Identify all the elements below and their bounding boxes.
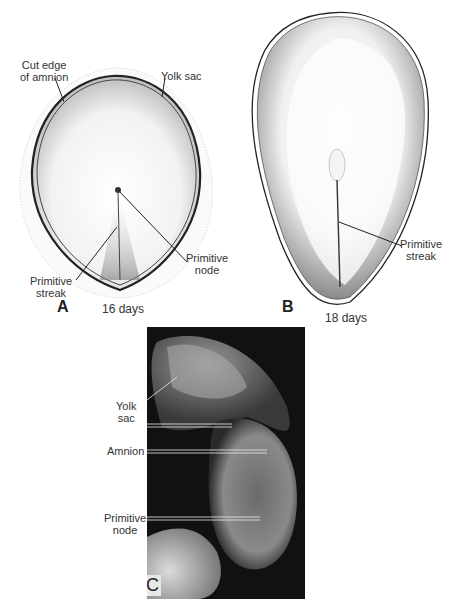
label-line: of amnion (20, 71, 68, 83)
panel-letter-c: C (147, 575, 161, 596)
label-primitive-node-a: Primitive node (186, 252, 228, 276)
label-primitive-streak-a: Primitive streak (30, 275, 72, 299)
label-line: Primitive (400, 238, 442, 250)
label-line: node (186, 264, 228, 276)
label-line: Primitive (30, 275, 72, 287)
photo-content (147, 327, 305, 599)
label-primitive-streak-b: Primitive streak (400, 238, 442, 262)
label-yolk-sac-a: Yolk sac (161, 70, 202, 82)
panel-letter-b: B (282, 298, 294, 316)
label-cut-edge-of-amnion: Cut edge of amnion (20, 59, 68, 83)
label-line: Primitive (186, 252, 228, 264)
panel-a-embryo (20, 68, 213, 298)
caption-b: 18 days (325, 312, 367, 324)
caption-a: 16 days (102, 303, 144, 315)
label-line: streak (400, 250, 442, 262)
label-line: Primitive (104, 512, 146, 524)
panel-c-photograph: C (147, 327, 305, 599)
panel-letter-a: A (57, 298, 69, 316)
label-line: Cut edge (20, 59, 68, 71)
label-line: node (104, 524, 146, 536)
label-amnion-c: Amnion (107, 445, 144, 457)
label-line: Yolk (116, 400, 136, 412)
label-primitive-node-c: Primitive node (104, 512, 146, 536)
label-yolk-sac-c: Yolk sac (116, 400, 136, 424)
label-line: sac (116, 412, 136, 424)
